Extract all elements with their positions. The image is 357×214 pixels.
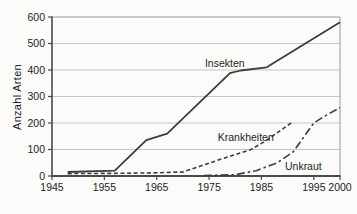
x-tick-label-1995: 1995 — [302, 181, 326, 193]
series-labels: InsektenKrankheitenUnkraut — [205, 57, 322, 172]
data-series — [68, 22, 340, 175]
y-tick-label-300: 300 — [27, 90, 45, 102]
x-tick-label-2000: 2000 — [328, 181, 352, 193]
y-tick-label-0: 0 — [39, 170, 45, 182]
x-tick-label-1985: 1985 — [250, 181, 274, 193]
y-tick-label-200: 200 — [27, 117, 45, 129]
y-axis-title: Anzahl Arten — [11, 64, 23, 130]
gridlines — [52, 44, 340, 150]
series-line-krankheiten — [68, 122, 293, 174]
y-tick-label-100: 100 — [27, 143, 45, 155]
axis-ticks — [48, 17, 340, 180]
y-tick-label-600: 600 — [27, 11, 45, 23]
chart-figure: 0100200300400500600194519551965197519851… — [0, 0, 357, 214]
x-tick-label-1975: 1975 — [197, 181, 221, 193]
species-line-chart: 0100200300400500600194519551965197519851… — [0, 0, 357, 214]
series-label-krankheiten: Krankheiten — [218, 131, 274, 143]
series-label-insekten: Insekten — [205, 57, 245, 69]
x-tick-label-1955: 1955 — [93, 181, 117, 193]
series-label-unkraut: Unkraut — [285, 160, 322, 172]
x-tick-label-1965: 1965 — [145, 181, 169, 193]
x-tick-label-1945: 1945 — [40, 181, 64, 193]
y-tick-label-400: 400 — [27, 64, 45, 76]
y-tick-label-500: 500 — [27, 37, 45, 49]
